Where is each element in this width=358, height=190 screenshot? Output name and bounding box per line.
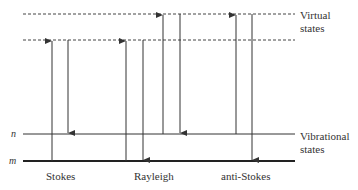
level-m-label: m (9, 155, 16, 167)
anti-stokes-label: anti-Stokes (221, 170, 271, 182)
rayleigh-label: Rayleigh (134, 170, 174, 182)
level-n-label: n (11, 128, 16, 140)
virtual-states-label-line2: states (300, 22, 324, 34)
virtual-states-label-line1: Virtual (300, 9, 331, 21)
vibrational-states-label-line1: Vibrational (300, 130, 349, 142)
vibrational-states-label-line2: states (300, 143, 324, 155)
stokes-label: Stokes (46, 170, 75, 182)
